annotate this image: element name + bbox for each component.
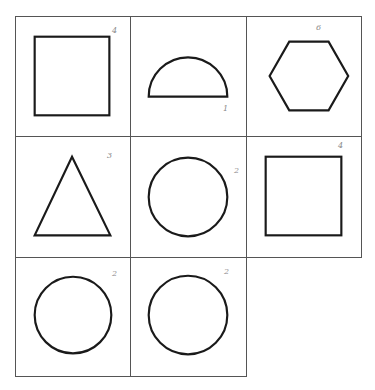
cell-square-r2c3: 4 bbox=[246, 136, 362, 258]
cell-label: 6 bbox=[316, 24, 321, 32]
cell-label: 4 bbox=[338, 142, 343, 150]
cell-label: 2 bbox=[224, 268, 229, 276]
cell-circle-r3c1: 2 bbox=[15, 257, 131, 377]
cell-hexagon-r1c3: 6 bbox=[246, 16, 362, 137]
cell-circle-r3c2: 2 bbox=[130, 257, 247, 377]
cell-label: 4 bbox=[112, 27, 117, 35]
square-icon bbox=[247, 137, 361, 257]
cell-semicircle-r1c2: 1 bbox=[130, 16, 247, 137]
cell-label: 3 bbox=[107, 152, 112, 160]
shape-grid: 4 1 6 3 2 4 2 bbox=[15, 16, 362, 377]
cell-square-r1c1: 4 bbox=[15, 16, 131, 137]
triangle-icon bbox=[16, 137, 130, 257]
cell-label: 1 bbox=[223, 105, 228, 113]
cell-triangle-r2c1: 3 bbox=[15, 136, 131, 258]
cell-label: 2 bbox=[112, 270, 117, 278]
circle-icon bbox=[131, 137, 246, 257]
semicircle-icon bbox=[131, 17, 246, 136]
cell-label: 2 bbox=[234, 167, 239, 175]
hexagon-icon bbox=[247, 17, 361, 136]
cell-circle-r2c2: 2 bbox=[130, 136, 247, 258]
